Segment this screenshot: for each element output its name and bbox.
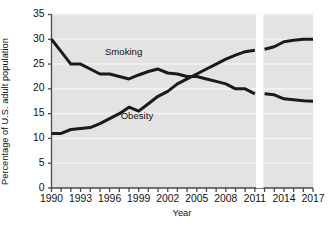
x-axis-title: Year xyxy=(152,207,212,218)
y-tick-label: 5 xyxy=(21,157,45,168)
y-tick-label: 10 xyxy=(21,132,45,143)
y-tick-label: 25 xyxy=(21,58,45,69)
data-break-gap xyxy=(256,15,263,189)
y-tick-label: 20 xyxy=(21,82,45,93)
series-label-obesity: Obesity xyxy=(121,110,154,121)
y-tick-label: 35 xyxy=(21,8,45,19)
series-label-smoking: Smoking xyxy=(105,46,142,57)
plot-canvas xyxy=(0,0,336,240)
plot-background-group xyxy=(52,15,314,189)
chart-figure: Percentage of U.S. adult population 3530… xyxy=(0,0,336,240)
x-tick-label: 2017 xyxy=(295,193,331,204)
y-tick-label: 30 xyxy=(21,33,45,44)
y-tick-label: 0 xyxy=(21,182,45,193)
y-tick-label: 15 xyxy=(21,107,45,118)
